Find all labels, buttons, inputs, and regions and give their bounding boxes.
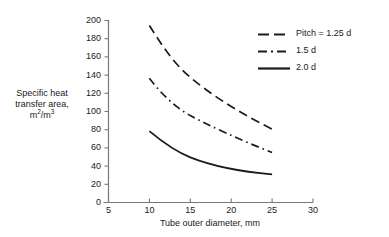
y-tick-label-20: 20 xyxy=(79,180,101,189)
legend-item-1-5d: 1.5 d xyxy=(258,44,388,61)
y-tick-label-180: 180 xyxy=(79,34,101,43)
y-tick-label-40: 40 xyxy=(79,162,101,171)
legend-swatch-dash-dot-icon xyxy=(258,50,290,53)
y-axis-title-units: m2/m3 xyxy=(4,110,80,121)
y-tick-label-140: 140 xyxy=(79,71,101,80)
series-line-pitch-1-25d xyxy=(149,26,272,130)
y-unit-numerator: m xyxy=(30,110,38,120)
legend-item-2-0d: 2.0 d xyxy=(258,61,388,78)
x-axis-ticks xyxy=(109,198,314,203)
y-axis-ticks xyxy=(104,21,109,203)
x-tick-label-30: 30 xyxy=(303,206,323,215)
legend: Pitch = 1.25 d 1.5 d 2.0 d xyxy=(258,27,388,78)
x-tick-label-15: 15 xyxy=(180,206,200,215)
legend-item-pitch-1-25d: Pitch = 1.25 d xyxy=(258,27,388,44)
x-tick-label-25: 25 xyxy=(262,206,282,215)
y-tick-label-200: 200 xyxy=(79,16,101,25)
legend-label-2-0d: 2.0 d xyxy=(296,61,316,74)
y-unit-denominator-exponent: 3 xyxy=(51,108,55,115)
x-tick-label-20: 20 xyxy=(221,206,241,215)
series-line-1-5d xyxy=(149,78,272,152)
y-tick-label-60: 60 xyxy=(79,143,101,152)
y-axis-title-line2: transfer area, xyxy=(15,99,69,109)
legend-label-1-5d: 1.5 d xyxy=(296,44,316,57)
chart-figure: 0 20 40 60 80 100 120 140 160 180 200 5 … xyxy=(0,0,389,237)
y-tick-label-160: 160 xyxy=(79,52,101,61)
y-axis-title-line1: Specific heat xyxy=(16,88,68,98)
x-axis-title: Tube outer diameter, mm xyxy=(100,218,320,228)
y-tick-label-120: 120 xyxy=(79,89,101,98)
x-tick-label-10: 10 xyxy=(139,206,159,215)
y-unit-denominator: /m xyxy=(41,110,51,120)
legend-swatch-solid-icon xyxy=(258,67,290,70)
series-line-2-0d xyxy=(149,131,272,174)
y-axis-title: Specific heat transfer area, m2/m3 xyxy=(4,88,80,121)
legend-label-pitch-1-25d: Pitch = 1.25 d xyxy=(296,27,351,40)
y-tick-label-100: 100 xyxy=(79,107,101,116)
y-tick-label-80: 80 xyxy=(79,125,101,134)
legend-swatch-dashed-icon xyxy=(258,33,290,36)
x-tick-label-5: 5 xyxy=(99,206,119,215)
